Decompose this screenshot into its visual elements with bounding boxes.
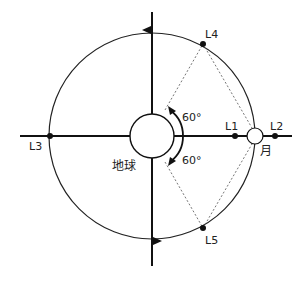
lagrange-diagram: L1 L2 L3 L4 L5 60° 60° 地球 月: [0, 0, 305, 292]
label-l5: L5: [205, 234, 218, 247]
point-l3: [47, 133, 53, 139]
label-l2: L2: [270, 120, 283, 133]
point-l5: [200, 225, 206, 231]
angle-label-upper: 60°: [182, 111, 202, 124]
label-l4: L4: [205, 28, 218, 41]
moon-circle: [247, 128, 263, 144]
point-l4: [200, 41, 206, 47]
moon-label: 月: [260, 144, 272, 158]
earth-label: 地球: [112, 159, 136, 173]
earth-circle: [130, 114, 174, 158]
label-l1: L1: [225, 120, 238, 133]
label-l3: L3: [29, 140, 42, 153]
point-l1: [232, 133, 238, 139]
point-l2: [272, 133, 278, 139]
angle-label-lower: 60°: [182, 154, 202, 167]
